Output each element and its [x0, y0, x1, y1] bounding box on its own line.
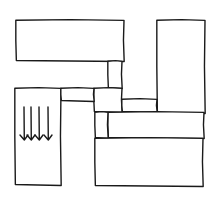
- top-right-block: [157, 20, 205, 114]
- top-left-block: [16, 20, 124, 62]
- middle-bar: [108, 112, 204, 139]
- blocks-group: [15, 20, 205, 187]
- upper-connector: [108, 61, 122, 89]
- center-square: [94, 88, 122, 113]
- bottom-right-block: [95, 138, 203, 187]
- diagram-canvas: [0, 0, 218, 203]
- lower-connector: [95, 112, 108, 139]
- right-connector-strip: [122, 99, 157, 113]
- left-connector-bar: [61, 88, 94, 102]
